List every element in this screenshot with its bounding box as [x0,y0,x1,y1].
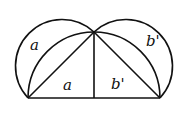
label-inner-left: a [63,76,72,94]
geometry-diagram: a a b' b' [0,0,183,117]
label-outer-left: a [30,36,39,54]
label-outer-right: b' [146,32,160,50]
outer-right-semicircle [94,20,172,98]
label-inner-right: b' [111,75,125,93]
outer-left-semicircle [16,20,94,98]
